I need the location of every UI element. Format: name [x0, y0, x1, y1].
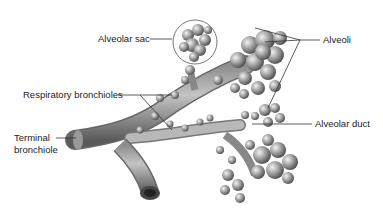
- label-terminal-bronchiole-line2: bronchiole: [14, 144, 58, 155]
- alveoli-cluster-duct: [241, 103, 285, 127]
- label-terminal-bronchiole-line1: Terminal: [14, 132, 50, 143]
- lung-diagram: [0, 0, 383, 211]
- label-respiratory-bronchioles: Respiratory bronchioles: [23, 89, 123, 100]
- label-alveoli: Alveoli: [323, 34, 351, 45]
- label-alveolar-duct: Alveolar duct: [315, 118, 370, 129]
- alveoli-cluster-lower: [216, 134, 298, 203]
- label-alveolar-sac: Alveolar sac: [98, 33, 150, 44]
